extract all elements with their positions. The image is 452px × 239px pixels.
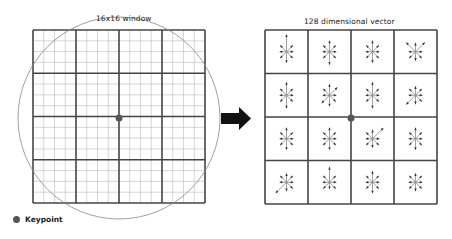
orientation-histogram <box>365 40 380 63</box>
orientation-histogram <box>322 167 337 190</box>
orientation-histogram <box>279 127 294 150</box>
window-title: 16x16 window <box>96 14 152 23</box>
orientation-histogram <box>365 171 380 194</box>
orientation-histogram <box>275 173 293 194</box>
orientation-histogram <box>279 34 294 63</box>
orientation-histogram <box>321 84 337 107</box>
orientation-histogram <box>406 86 423 105</box>
orientation-histogram <box>408 127 423 150</box>
sift-diagram <box>0 0 452 239</box>
orientation-histogram <box>365 128 383 149</box>
right-arrow-icon <box>221 107 251 130</box>
legend: Keypoint <box>13 215 63 224</box>
keypoint-legend-icon <box>13 216 20 223</box>
keypoint-marker-left <box>116 115 123 122</box>
orientation-histogram <box>365 82 380 109</box>
orientation-histogram <box>322 40 337 65</box>
orientation-histogram <box>408 173 423 192</box>
orientation-histogram <box>279 82 294 109</box>
vector-title: 128 dimensional vector <box>304 17 395 26</box>
orientation-histogram <box>406 42 425 61</box>
orientation-histogram <box>322 127 337 150</box>
legend-label: Keypoint <box>25 215 63 224</box>
keypoint-marker-right <box>348 115 355 122</box>
